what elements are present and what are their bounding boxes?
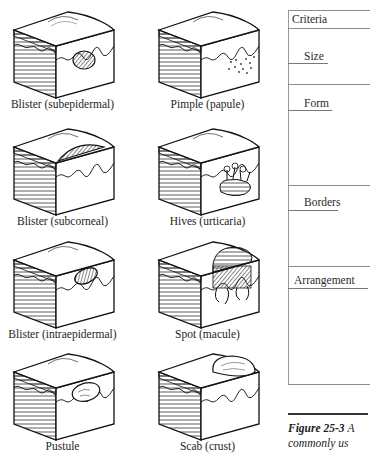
table-bottom-border bbox=[288, 384, 370, 385]
illustration-label: Spot (macule) bbox=[145, 328, 270, 340]
intraepidermal-blister-sketch bbox=[6, 230, 124, 330]
row-divider bbox=[288, 84, 370, 85]
criteria-borders: Borders bbox=[304, 196, 340, 208]
illustration-papule: Pimple (papule) bbox=[145, 0, 270, 112]
table-header-criteria: Criteria bbox=[292, 13, 327, 25]
urticaria-sketch bbox=[151, 117, 269, 217]
criteria-table: Criteria Size Form Borders Arrangement bbox=[288, 10, 368, 385]
illustration-urticaria: Hives (urticaria) bbox=[145, 117, 270, 229]
illustration-label: Pustule bbox=[0, 440, 125, 452]
table-left-border bbox=[288, 10, 289, 385]
illustration-intraepidermal-blister: Blister (intraepidermal) bbox=[0, 230, 125, 342]
illustration-subepidermal-blister: Blister (subepidermal) bbox=[0, 0, 125, 112]
crust-sketch bbox=[151, 342, 269, 442]
pustule-sketch bbox=[6, 342, 124, 442]
illustration-label: Blister (intraepidermal) bbox=[0, 328, 125, 340]
macule-sketch bbox=[151, 230, 269, 330]
illustration-pustule: Pustule bbox=[0, 342, 125, 454]
row-divider bbox=[288, 185, 370, 186]
borders-underline bbox=[288, 210, 338, 211]
illustration-macule: Spot (macule) bbox=[145, 230, 270, 342]
criteria-size: Size bbox=[304, 50, 324, 62]
figure-caption: Figure 25-3 A commonly us bbox=[288, 421, 354, 451]
illustration-subcorneal-blister: Blister (subcorneal) bbox=[0, 117, 125, 229]
arrangement-underline bbox=[288, 288, 368, 289]
subcorneal-blister-sketch bbox=[6, 117, 124, 217]
illustration-label: Hives (urticaria) bbox=[145, 215, 270, 227]
illustration-label: Scab (crust) bbox=[145, 440, 270, 452]
criteria-arrangement: Arrangement bbox=[294, 274, 355, 286]
caption-text-1: A bbox=[347, 422, 354, 434]
criteria-form: Form bbox=[304, 97, 329, 109]
illustration-label: Blister (subepidermal) bbox=[0, 98, 125, 110]
subepidermal-blister-sketch bbox=[6, 0, 124, 100]
row-divider bbox=[288, 266, 370, 267]
caption-rule bbox=[288, 413, 368, 415]
illustration-crust: Scab (crust) bbox=[145, 342, 270, 454]
caption-text-2: commonly us bbox=[288, 437, 348, 449]
form-underline bbox=[288, 110, 332, 111]
table-header-divider bbox=[288, 28, 370, 29]
table-top-border bbox=[288, 10, 370, 11]
illustration-label: Pimple (papule) bbox=[145, 98, 270, 110]
size-underline bbox=[288, 63, 328, 64]
papule-sketch bbox=[151, 0, 269, 100]
illustration-label: Blister (subcorneal) bbox=[0, 215, 125, 227]
figure-number: Figure 25-3 bbox=[288, 422, 345, 434]
